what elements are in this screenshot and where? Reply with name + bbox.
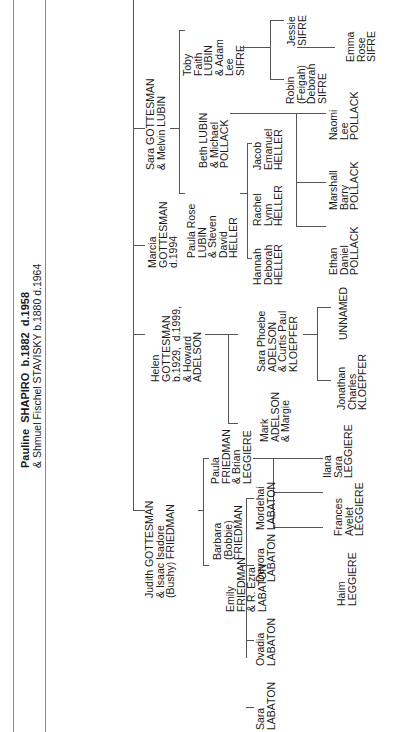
person-sara-phoebe-adelson: Sara Phoebe ADELSON & Curtis Paul KLOEPF… bbox=[256, 311, 298, 372]
person-jonathan-kloepfer: Jonathan Charles KLOEPFER bbox=[336, 354, 368, 410]
tick-naomi bbox=[296, 113, 326, 114]
link-paula-rose bbox=[240, 193, 247, 194]
person-unnamed: UNNAMED bbox=[338, 287, 349, 340]
tick-paula-rose bbox=[179, 193, 185, 194]
person-devora-labaton: Devora LABATON bbox=[255, 534, 276, 582]
person-toby-lubin: Toby Faith LUBIN & Adam Lee SIFRE bbox=[182, 39, 245, 76]
person-mark-adelson: Mark ADELSON & Margie bbox=[259, 392, 291, 442]
tick-toby bbox=[179, 30, 185, 31]
page-rule-inner bbox=[45, 0, 46, 732]
person-marcia-gottesman: Marcia GOTTESMAN d.1994 bbox=[147, 201, 179, 268]
tick-ilana bbox=[273, 458, 323, 459]
person-emma-sifre: Emma Rose SIFRE bbox=[345, 31, 377, 62]
person-robin-sifre: Robin (Feigah) Deborah SIFRE bbox=[285, 64, 327, 104]
person-ovadia-labaton: Ovadia LABATON bbox=[255, 618, 276, 666]
tick-unnamed bbox=[317, 307, 331, 308]
tick-mark bbox=[228, 423, 238, 424]
tick-haim bbox=[273, 527, 323, 528]
person-sara-gottesman: Sara GOTTESMAN & Melvin LUBIN bbox=[145, 78, 166, 170]
person-beth-lubin: Beth LUBIN & Michael POLLACK bbox=[198, 113, 230, 168]
tick-emily bbox=[203, 565, 209, 566]
spine-gen1 bbox=[133, 0, 134, 510]
person-frances-leggiere: Frances Ayelet LEGGIERE bbox=[333, 482, 365, 536]
bracket-helen-children bbox=[228, 334, 229, 424]
bracket-sara-children bbox=[179, 30, 180, 194]
title-line2: & Shmuel Fischel STAVISKY b.1880 d.1964 bbox=[32, 264, 43, 468]
tick-marcia bbox=[133, 245, 145, 246]
tick-helen bbox=[133, 334, 145, 335]
tick-mordehai bbox=[246, 498, 254, 499]
title-line1: Pauline SHAPIRO b.1882 d.1958 bbox=[20, 292, 31, 468]
person-rachel-heller: Rachel Lynn HELLER bbox=[252, 185, 284, 226]
link-helen bbox=[205, 334, 229, 335]
tick-devora bbox=[246, 565, 254, 566]
person-mordehai-labaton: Mordehai LABATON bbox=[255, 482, 276, 530]
link-paula-friedman bbox=[253, 458, 273, 459]
tick-sara-labaton bbox=[246, 707, 254, 708]
bracket-toby-children bbox=[270, 20, 271, 80]
tick-ovadia bbox=[246, 640, 254, 641]
person-barbara-friedman: Barbara (Bobbie) FRIEDMAN bbox=[212, 505, 244, 560]
page-rule-left bbox=[13, 0, 14, 732]
tick-sara-phoebe bbox=[228, 334, 238, 335]
person-jacob-heller: Jacob Emanuel HELLER bbox=[252, 129, 284, 170]
person-sara-labaton: Sara LABATON bbox=[255, 682, 276, 730]
tick-jonathan bbox=[317, 380, 331, 381]
link-toby bbox=[240, 47, 270, 48]
person-paula-friedman: Paula FRIEDMAN & Brian LEGGIERE bbox=[210, 429, 252, 484]
person-hannah-heller: Hannah Deborah HELLER bbox=[252, 244, 284, 285]
tick-marshall bbox=[296, 182, 326, 183]
tick-ethan bbox=[296, 226, 326, 227]
bracket-paula-rose-children bbox=[247, 143, 248, 259]
person-helen-gottesman: Helen GOTTESMAN b.1929, d.1999, & Howard… bbox=[150, 306, 203, 382]
tick-jessie bbox=[270, 20, 284, 21]
bracket-beth-children bbox=[296, 113, 297, 227]
tick-robin bbox=[270, 79, 284, 80]
bracket-judith-children bbox=[203, 458, 204, 566]
person-judith-gottesman: Judith GOTTESMAN & Isaac Isadore (Bushy)… bbox=[144, 501, 176, 598]
person-jessie-sifre: Jessie SIFRE bbox=[286, 15, 307, 46]
person-paula-rose-lubin: Paula Rose LUBIN & Steven David HELLER bbox=[186, 204, 239, 258]
bracket-sara-phoebe-children bbox=[317, 307, 318, 381]
person-ilana-leggiere: Ilana Sara LEGGIERE bbox=[322, 424, 354, 478]
tick-frances bbox=[273, 492, 323, 493]
person-haim-leggiere: Haim LEGGIERE bbox=[336, 552, 357, 606]
person-marshall-pollack: Marshall Barry POLLACK bbox=[328, 162, 360, 210]
link-beth-h bbox=[246, 113, 296, 114]
bracket-emily-children bbox=[246, 498, 247, 658]
person-naomi-pollack: Naomi Lee POLLACK bbox=[328, 92, 360, 140]
person-ethan-pollack: Ethan Daniel POLLACK bbox=[328, 227, 360, 275]
link-sara-phoebe bbox=[303, 334, 317, 335]
link-robin-emma bbox=[297, 47, 335, 48]
